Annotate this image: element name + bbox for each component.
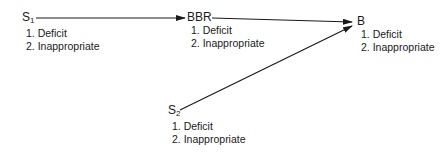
node-bbr-label: BBR [187, 11, 265, 24]
node-s1-label: S1 [22, 11, 100, 27]
node-s2-label: S2 [168, 104, 246, 120]
node-b-label: B [357, 15, 435, 28]
node-s2-item-inappropriate: 2. Inappropriate [172, 133, 246, 146]
node-s1-item-deficit: 1. Deficit [26, 27, 100, 40]
node-b-items: 1. Deficit 2. Inappropriate [357, 28, 435, 53]
node-bbr-items: 1. Deficit 2. Inappropriate [187, 24, 265, 49]
node-s2: S2 1. Deficit 2. Inappropriate [168, 104, 246, 145]
node-s2-item-deficit: 1. Deficit [172, 120, 246, 133]
node-bbr-item-deficit: 1. Deficit [191, 24, 265, 37]
node-b-item-deficit: 1. Deficit [361, 28, 435, 41]
node-s1-item-inappropriate: 2. Inappropriate [26, 40, 100, 53]
node-s2-items: 1. Deficit 2. Inappropriate [168, 120, 246, 145]
node-s1-items: 1. Deficit 2. Inappropriate [22, 27, 100, 52]
node-bbr-item-inappropriate: 2. Inappropriate [191, 37, 265, 50]
node-b-item-inappropriate: 2. Inappropriate [361, 41, 435, 54]
node-bbr: BBR 1. Deficit 2. Inappropriate [187, 11, 265, 49]
node-b: B 1. Deficit 2. Inappropriate [357, 15, 435, 53]
node-s1: S1 1. Deficit 2. Inappropriate [22, 11, 100, 52]
